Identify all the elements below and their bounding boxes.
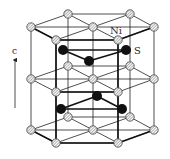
ni-atom bbox=[52, 88, 60, 96]
ni-atom bbox=[114, 139, 122, 147]
ni-atom bbox=[27, 23, 35, 31]
ni-atom bbox=[52, 139, 60, 147]
ni-atom bbox=[64, 62, 72, 70]
ni-atom bbox=[114, 88, 122, 96]
s-atom bbox=[121, 45, 131, 55]
ni-atom bbox=[150, 23, 158, 31]
ni-atom bbox=[126, 113, 134, 121]
ni-atom bbox=[89, 126, 97, 134]
ni-atom bbox=[27, 126, 35, 134]
ni-atom bbox=[64, 113, 72, 121]
ni-atom bbox=[64, 10, 72, 18]
nis-crystal-structure: c Ni S bbox=[0, 0, 170, 159]
s-atom bbox=[92, 91, 102, 101]
s-atom bbox=[56, 104, 66, 114]
ni-atom bbox=[150, 75, 158, 83]
ni-atom bbox=[89, 23, 97, 31]
s-atom bbox=[84, 56, 94, 66]
ni-atom bbox=[126, 10, 134, 18]
s-atom bbox=[58, 45, 68, 55]
ni-atoms bbox=[27, 10, 158, 147]
ni-atom bbox=[114, 36, 122, 44]
ni-atom bbox=[27, 75, 35, 83]
ni-atom bbox=[150, 126, 158, 134]
ni-atom bbox=[52, 36, 60, 44]
ni-label: Ni bbox=[110, 25, 122, 36]
s-atom bbox=[117, 104, 127, 114]
c-axis-label: c bbox=[12, 46, 17, 56]
s-label: S bbox=[134, 45, 141, 56]
ni-atom bbox=[126, 62, 134, 70]
ni-atom bbox=[89, 75, 97, 83]
